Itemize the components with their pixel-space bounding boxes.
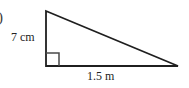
horizontal-leg-length-label: 1.5 m <box>87 70 114 82</box>
triangle-outline <box>46 11 178 66</box>
right-angle-marker-icon <box>46 53 59 66</box>
figure-canvas: ) 7 cm 1.5 m <box>0 0 189 88</box>
vertical-leg-length-label: 7 cm <box>11 31 35 43</box>
